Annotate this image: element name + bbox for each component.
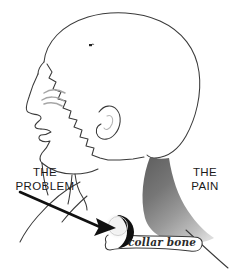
head-mark: [89, 44, 94, 47]
face-profile: [26, 74, 98, 174]
label-the-pain-line1: THE: [176, 165, 234, 179]
problem-arrow: [20, 192, 116, 236]
label-collar-bone: collar bone: [128, 236, 198, 249]
head-outline: [38, 13, 200, 158]
eye-and-eyebrow: [42, 90, 65, 106]
illustration-canvas: THE PROBLEM THE PAIN collar bone: [0, 0, 247, 277]
label-the-problem-line1: THE: [6, 165, 84, 179]
ear: [96, 106, 120, 139]
label-the-pain-line2: PAIN: [176, 179, 234, 193]
label-the-problem: THE PROBLEM: [6, 165, 84, 194]
hairline: [47, 64, 144, 160]
label-the-pain: THE PAIN: [176, 165, 234, 194]
anatomy-drawing: [0, 0, 247, 277]
label-the-problem-line2: PROBLEM: [6, 179, 84, 193]
